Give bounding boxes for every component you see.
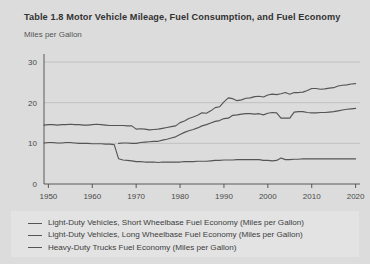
chart-figure: Table 1.8 Motor Vehicle Mileage, Fuel Co… — [0, 0, 370, 264]
axes — [44, 54, 360, 188]
series-line — [44, 143, 356, 163]
x-tick-label: 1990 — [215, 192, 233, 201]
legend-item-label: Light-Duty Vehicles, Short Wheelbase Fue… — [48, 219, 304, 227]
legend-line-icon — [28, 235, 42, 236]
x-tick-label: 1970 — [127, 192, 145, 201]
x-tick-label: 1950 — [39, 192, 57, 201]
legend-line-icon — [28, 247, 42, 248]
y-tick-label: 10 — [28, 139, 37, 148]
x-tick-label: 1960 — [83, 192, 101, 201]
legend-item-label: Light-Duty Vehicles, Long Wheelbase Fuel… — [48, 231, 303, 239]
series-line — [44, 84, 356, 130]
x-tick-label: 1980 — [171, 192, 189, 201]
legend-item[interactable]: Heavy-Duty Trucks Fuel Economy (Miles pe… — [28, 242, 359, 254]
x-tick-label: 2000 — [259, 192, 277, 201]
legend-item[interactable]: Light-Duty Vehicles, Short Wheelbase Fue… — [28, 217, 359, 229]
gridlines — [44, 62, 360, 143]
series-lines — [44, 84, 356, 163]
y-tick-label: 30 — [28, 58, 37, 67]
x-tick-label: 2020 — [347, 192, 365, 201]
chart-legend: Light-Duty Vehicles, Short Wheelbase Fue… — [11, 211, 359, 257]
y-tick-labels: 0102030 — [28, 58, 37, 189]
x-tick-labels: 19501960197019801990200020102020 — [39, 192, 365, 201]
legend-line-icon — [28, 223, 42, 224]
legend-item[interactable]: Light-Duty Vehicles, Long Wheelbase Fuel… — [28, 229, 359, 241]
legend-item-label: Heavy-Duty Trucks Fuel Economy (Miles pe… — [48, 244, 236, 252]
x-tick-label: 2010 — [303, 192, 321, 201]
series-line — [119, 108, 356, 143]
y-tick-label: 20 — [28, 99, 37, 108]
y-tick-label: 0 — [33, 180, 38, 189]
